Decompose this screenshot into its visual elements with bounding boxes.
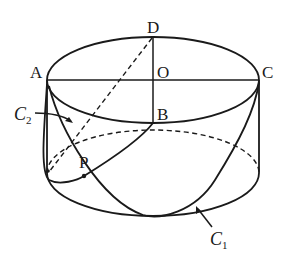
label-p: P [79,153,88,172]
label-c1-sub: 1 [222,239,228,251]
curve-c2 [43,84,153,183]
c2-arrow [35,113,71,121]
label-c2-sub: 2 [26,114,32,126]
label-c: C [262,63,273,82]
label-a: A [30,63,43,82]
c1-arrow [198,209,212,227]
curve-c1 [49,82,259,216]
cylinder-diagram: D A O C B P C 2 C 1 [0,0,285,256]
label-b: B [157,105,168,124]
dashed-line-d [49,38,152,172]
label-o: O [157,63,169,82]
label-d: D [147,18,159,37]
left-base-point [46,169,50,173]
point-p [82,174,86,178]
